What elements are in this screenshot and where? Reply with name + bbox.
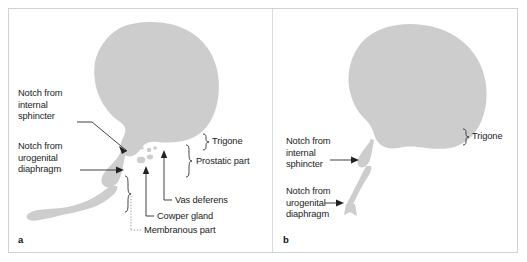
spongy-urethra-a [27,186,118,221]
label-notch-urogenital-diaphragm-b: Notch from urogenital diaphragm [286,186,330,221]
label-cowper-gland-a: Cowper gland [157,211,213,223]
label-notch-urogenital-diaphragm-a: Notch from urogenital diaphragm [18,141,62,176]
arrowhead-notch-urogenital-diaphragm-b [336,200,344,207]
prostate-gland-dot [133,147,137,151]
panel-letter-b: b [283,234,289,245]
panel-letter-a: a [18,234,23,245]
bladder-outline-b [349,24,487,149]
arrowhead-cowper-gland-a [143,166,149,174]
bracket-prostatic-part-a [186,145,192,177]
label-trigone-a: Trigone [212,136,242,148]
label-prostatic-part-a: Prostatic part [196,156,249,168]
bracket-membranous-part-a [125,176,131,212]
label-notch-internal-sphincter-b: Notch from internal sphincter [286,136,330,171]
prostatic-urethra-a [101,151,126,187]
bladder-outline-a [94,22,219,156]
prostate-gland-dot [153,146,157,150]
arrowhead-vas-deferens-a [161,150,167,158]
cowper-gland-shape [137,157,145,163]
label-trigone-b: Trigone [472,131,502,143]
label-vas-deferens-a: Vas deferens [175,195,228,207]
figure-container: Notch from internal sphincter Notch from… [0,0,527,262]
bracket-trigone-a [203,134,209,150]
urethra-b [347,166,371,205]
prostate-gland-dot [140,146,143,149]
label-notch-internal-sphincter-a: Notch from internal sphincter [18,88,62,123]
label-membranous-part-a: Membranous part [144,225,215,237]
diagram-artwork [0,0,527,262]
panel-b-anatomy [325,24,487,216]
bladder-neck-b [358,139,374,167]
urethra-distal-flare-b [344,204,357,216]
prostate-gland-dot [147,148,152,153]
vas-deferens-shape [147,155,153,160]
